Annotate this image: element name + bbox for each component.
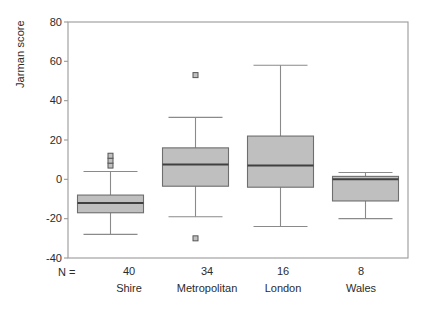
x-group-n-wales: 8 [306, 266, 416, 277]
outlier-marker [108, 163, 113, 168]
outlier-marker [193, 236, 198, 241]
plot-canvas [0, 0, 443, 310]
outlier-marker [193, 73, 198, 78]
box-plot-group-london [248, 65, 314, 226]
box-plot-group-metropolitan [163, 73, 229, 241]
outlier-marker [108, 153, 113, 158]
outlier-marker [108, 158, 113, 163]
box-plot-group-shire [78, 153, 144, 234]
box-iqr [248, 136, 314, 187]
plot-frame [68, 22, 408, 258]
x-group-label-wales: Wales [306, 283, 416, 294]
box-plot-figure: Jarman score 80 60 40 20 0 -20 -40 N = 4… [0, 0, 443, 310]
box-iqr [163, 148, 229, 186]
n-prefix-label: N = [58, 266, 75, 278]
box-plot-group-wales [333, 172, 399, 218]
